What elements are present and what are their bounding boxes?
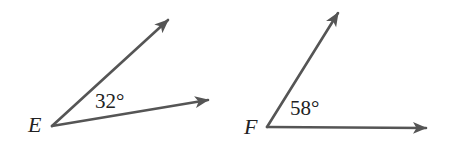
ray-f-horizontal [267,127,426,128]
vertex-label-e: E [28,114,41,136]
angle-e [52,20,208,126]
vertex-label-f: F [244,116,257,138]
diagram-canvas: E 32° F 58° [0,0,453,152]
angle-measure-e: 32° [95,91,124,112]
angle-measure-f: 58° [290,98,319,119]
angles-drawing [0,0,453,152]
